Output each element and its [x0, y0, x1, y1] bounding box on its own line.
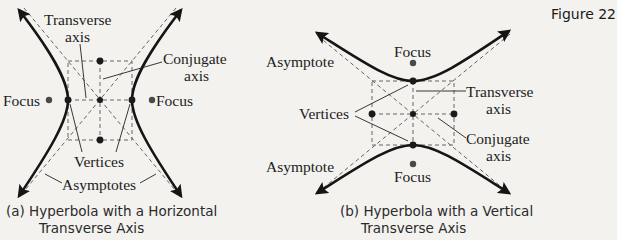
vertex-point [129, 97, 136, 104]
leader-line [70, 104, 82, 152]
leader-line [140, 174, 156, 183]
center-point [410, 111, 416, 117]
co-vertex-point [369, 111, 376, 118]
panel-a-horizontal-hyperbola: Transverse axis Conjugate axis Focus Foc… [3, 8, 227, 236]
asymptotes-label: Asymptotes [62, 176, 136, 193]
caption-a: (a) Hyperbola with a Horizontal [6, 203, 217, 219]
transverse-axis-label: Transverse [466, 83, 534, 100]
figure-label: Figure 22 [551, 6, 616, 22]
focus-point [410, 161, 416, 167]
vertex-point [410, 78, 417, 85]
leader-line [355, 116, 408, 141]
leader-line [103, 62, 162, 79]
caption-b: Transverse Axis [360, 220, 466, 236]
vertices-label: Vertices [299, 105, 349, 122]
asymptote-label-bottom: Asymptote [266, 158, 334, 175]
focus-point [149, 97, 155, 103]
co-vertex-point [97, 58, 104, 65]
conjugate-axis-label: axis [486, 147, 511, 164]
focus-point [410, 60, 416, 66]
transverse-axis-label: axis [486, 100, 511, 117]
conjugate-axis-label: Conjugate [163, 50, 227, 67]
caption-a: Transverse Axis [38, 220, 144, 236]
hyperbola-figure: Transverse axis Conjugate axis Focus Foc… [0, 0, 617, 240]
focus-label-top: Focus [394, 43, 431, 60]
leader-line [355, 85, 408, 112]
conjugate-axis-label: axis [184, 67, 209, 84]
leader-line [438, 118, 466, 138]
panel-b-vertical-hyperbola: Focus Focus Asymptote Asymptote Vertices… [266, 31, 534, 236]
leader-line [80, 44, 86, 98]
focus-label-bottom: Focus [394, 168, 431, 185]
conjugate-axis-label: Conjugate [466, 130, 530, 147]
focus-point [46, 97, 52, 103]
vertex-point [410, 142, 417, 149]
focus-label-right: Focus [156, 92, 193, 109]
caption-b: (b) Hyperbola with a Vertical [340, 203, 533, 219]
vertex-point [65, 97, 72, 104]
asymptote-label-top: Asymptote [266, 53, 334, 70]
leader-line [45, 174, 62, 183]
focus-label-left: Focus [3, 92, 40, 109]
vertices-label: Vertices [74, 153, 124, 170]
co-vertex-point [97, 137, 104, 144]
transverse-axis-label: Transverse [44, 11, 112, 28]
leader-line [116, 104, 130, 152]
center-point [97, 97, 103, 103]
co-vertex-point [451, 111, 458, 118]
transverse-axis-label: axis [65, 28, 90, 45]
